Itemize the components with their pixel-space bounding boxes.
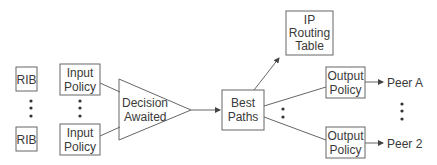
peer-a-label: Peer A — [387, 76, 423, 90]
input-policy-bottom-line1: Input — [67, 126, 94, 140]
rib-top-label: RIB — [16, 73, 36, 87]
best-paths-line1: Best — [231, 96, 256, 110]
rib-bottom-label: RIB — [16, 133, 36, 147]
bgp-decision-diagram: RIB RIB Input Policy Input Policy Decisi… — [0, 0, 437, 165]
output-policy-bottom-line1: Output — [327, 129, 364, 143]
input-policy-top-line1: Input — [67, 66, 94, 80]
best-paths-line2: Paths — [228, 110, 259, 124]
input-policy-top-line2: Policy — [64, 80, 96, 94]
ip-routing-table-line1: IP — [304, 13, 315, 27]
output-policy-bottom-line2: Policy — [329, 143, 361, 157]
ip-routing-table-line3: Table — [295, 39, 324, 53]
output-policy-top-line2: Policy — [329, 83, 361, 97]
decision-line1: Decision — [122, 96, 168, 110]
peer-2-label: Peer 2 — [387, 137, 423, 151]
input-policy-bottom-line2: Policy — [64, 140, 96, 154]
decision-line2: Awaited — [124, 110, 166, 124]
ip-routing-table-line2: Routing — [289, 26, 330, 40]
output-policy-top-line1: Output — [327, 69, 364, 83]
